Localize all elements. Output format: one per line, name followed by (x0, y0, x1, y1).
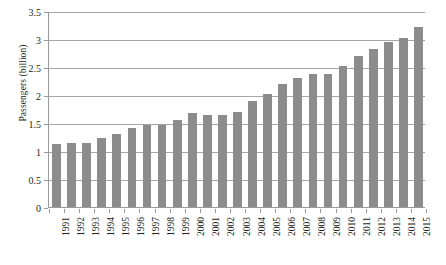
x-tick-label: 1995 (121, 217, 131, 236)
x-tick-mark (64, 209, 65, 213)
x-axis-labels: 1991199219931994199519961997199819992000… (49, 209, 425, 265)
bar (143, 125, 152, 207)
bar (67, 143, 76, 207)
x-tick-label: 2008 (317, 217, 327, 236)
x-tick-label: 2005 (272, 217, 282, 236)
x-tick-mark (245, 209, 246, 213)
x-tick-label: 2015 (422, 217, 432, 236)
x-tick-mark (275, 209, 276, 213)
bar (384, 42, 393, 207)
x-tick-label: 1997 (151, 217, 161, 236)
x-tick-label: 2002 (226, 217, 236, 236)
bar (309, 74, 318, 207)
x-tick-label: 1993 (91, 217, 101, 236)
x-tick-mark (124, 209, 125, 213)
y-tick-label: 0 (36, 203, 41, 214)
bar (248, 101, 257, 207)
x-tick-label: 2011 (362, 217, 372, 236)
x-tick-mark (230, 209, 231, 213)
bar (203, 115, 212, 207)
bar (218, 115, 227, 207)
bar (293, 78, 302, 207)
x-tick-mark (109, 209, 110, 213)
bar (263, 94, 272, 207)
x-tick-mark (411, 209, 412, 213)
x-tick-label: 2010 (347, 217, 357, 236)
x-tick-label: 2000 (196, 217, 206, 236)
x-tick-mark (260, 209, 261, 213)
bars-layer (49, 12, 425, 207)
y-axis-title: Passengers (billion) (18, 3, 28, 163)
x-tick-label: 2004 (257, 217, 267, 236)
x-tick-label: 1994 (106, 217, 116, 236)
y-tick-label: 1.5 (29, 119, 42, 130)
x-tick-mark (290, 209, 291, 213)
x-tick-mark (336, 209, 337, 213)
x-tick-label: 2009 (332, 217, 342, 236)
bar (414, 27, 423, 207)
x-tick-mark (366, 209, 367, 213)
bar (188, 113, 197, 207)
bar (369, 49, 378, 207)
x-tick-mark (396, 209, 397, 213)
y-tick-label: 0.5 (29, 175, 42, 186)
x-tick-label: 1991 (61, 217, 71, 236)
x-tick-mark (170, 209, 171, 213)
bar (97, 138, 106, 207)
bar (128, 128, 137, 207)
bar-chart: Passengers (billion) 00.511.522.533.5 19… (0, 0, 446, 265)
y-tick-label: 2.5 (29, 63, 42, 74)
x-tick-label: 1996 (136, 217, 146, 236)
x-tick-mark (200, 209, 201, 213)
x-axis-line (48, 207, 425, 208)
x-tick-mark (215, 209, 216, 213)
x-tick-label: 1998 (166, 217, 176, 236)
y-tick-label: 3 (36, 35, 41, 46)
bar (324, 74, 333, 207)
bar (278, 84, 287, 207)
x-tick-mark (320, 209, 321, 213)
x-tick-label: 1999 (181, 217, 191, 236)
x-tick-mark (185, 209, 186, 213)
x-tick-label: 2014 (407, 217, 417, 236)
bar (158, 125, 167, 207)
x-tick-label: 2012 (377, 217, 387, 236)
x-tick-label: 2007 (302, 217, 312, 236)
bar (112, 134, 121, 207)
x-tick-label: 2003 (242, 217, 252, 236)
bar (52, 144, 61, 207)
x-tick-label: 1992 (76, 217, 86, 236)
x-tick-mark (94, 209, 95, 213)
x-tick-mark (155, 209, 156, 213)
x-tick-mark (79, 209, 80, 213)
x-tick-mark (305, 209, 306, 213)
bar (339, 66, 348, 207)
y-tick-label: 3.5 (29, 7, 42, 18)
y-tick-label: 1 (36, 147, 41, 158)
x-tick-mark (49, 209, 50, 213)
x-tick-mark (426, 209, 427, 213)
bar (233, 112, 242, 207)
x-tick-mark (381, 209, 382, 213)
x-tick-label: 2013 (392, 217, 402, 236)
y-tick-label: 2 (36, 91, 41, 102)
plot-area: 00.511.522.533.5 (48, 12, 425, 208)
bar (82, 143, 91, 207)
x-tick-mark (351, 209, 352, 213)
x-tick-label: 2001 (211, 217, 221, 236)
bar (173, 120, 182, 207)
bar (354, 56, 363, 207)
x-tick-mark (139, 209, 140, 213)
x-tick-label: 2006 (287, 217, 297, 236)
bar (399, 38, 408, 207)
